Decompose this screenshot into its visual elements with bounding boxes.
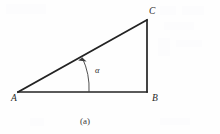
figure-caption: (a) [80,116,90,126]
scan-bleed-artifacts [6,4,204,126]
figure-container: A B C α (a) [0,0,220,134]
triangle-diagram: A B C α (a) [0,0,220,134]
triangle-side-hypotenuse-AC [18,20,147,92]
vertex-label-A: A [10,93,17,103]
vertex-label-C: C [149,6,156,16]
vertex-label-B: B [152,93,158,103]
angle-arc-alpha [82,58,89,92]
angle-label-alpha: α [95,65,100,75]
